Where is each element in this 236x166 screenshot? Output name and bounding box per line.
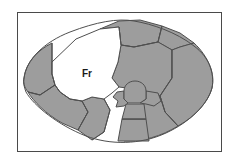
region-stem-lower[interactable] — [118, 119, 149, 141]
figure-root: Fr — [0, 0, 236, 166]
region-frontal[interactable] — [52, 27, 121, 101]
region-dome-central[interactable] — [124, 81, 146, 103]
segmented-outline-diagram: Fr — [0, 0, 236, 166]
region-label-fr: Fr — [82, 68, 92, 79]
region-stem-upper[interactable] — [122, 104, 146, 119]
